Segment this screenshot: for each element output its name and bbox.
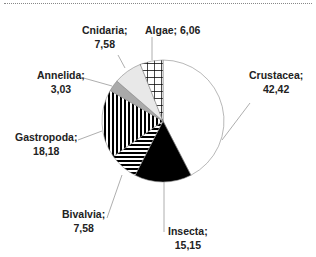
label-algae: Algae; 6,06 bbox=[145, 23, 200, 37]
pie-chart bbox=[0, 0, 316, 257]
label-bivalvia: Bivalvia;7,58 bbox=[62, 207, 105, 235]
label-insecta-value: 15,15 bbox=[175, 239, 201, 251]
label-bivalvia-value: 7,58 bbox=[73, 222, 93, 234]
label-bivalvia-name: Bivalvia; bbox=[62, 208, 105, 220]
label-gastropoda-name: Gastropoda; bbox=[15, 131, 77, 143]
label-gastropoda: Gastropoda;18,18 bbox=[15, 130, 77, 158]
label-annelida-name: Annelida; bbox=[37, 69, 85, 81]
label-annelida-value: 3,03 bbox=[51, 83, 71, 95]
label-insecta-name: Insecta; bbox=[168, 225, 208, 237]
label-algae-text: Algae; 6,06 bbox=[145, 24, 200, 36]
pie-slices bbox=[102, 60, 224, 182]
label-crustacea-name: Crustacea; bbox=[249, 69, 303, 81]
label-insecta: Insecta;15,15 bbox=[168, 224, 208, 252]
label-cnidaria: Cnidaria;7,58 bbox=[82, 23, 128, 51]
label-cnidaria-value: 7,58 bbox=[95, 38, 115, 50]
label-crustacea: Crustacea;42,42 bbox=[249, 68, 303, 96]
label-crustacea-value: 42,42 bbox=[263, 83, 289, 95]
label-gastropoda-value: 18,18 bbox=[33, 145, 59, 157]
label-cnidaria-name: Cnidaria; bbox=[82, 24, 128, 36]
label-annelida: Annelida;3,03 bbox=[37, 68, 85, 96]
